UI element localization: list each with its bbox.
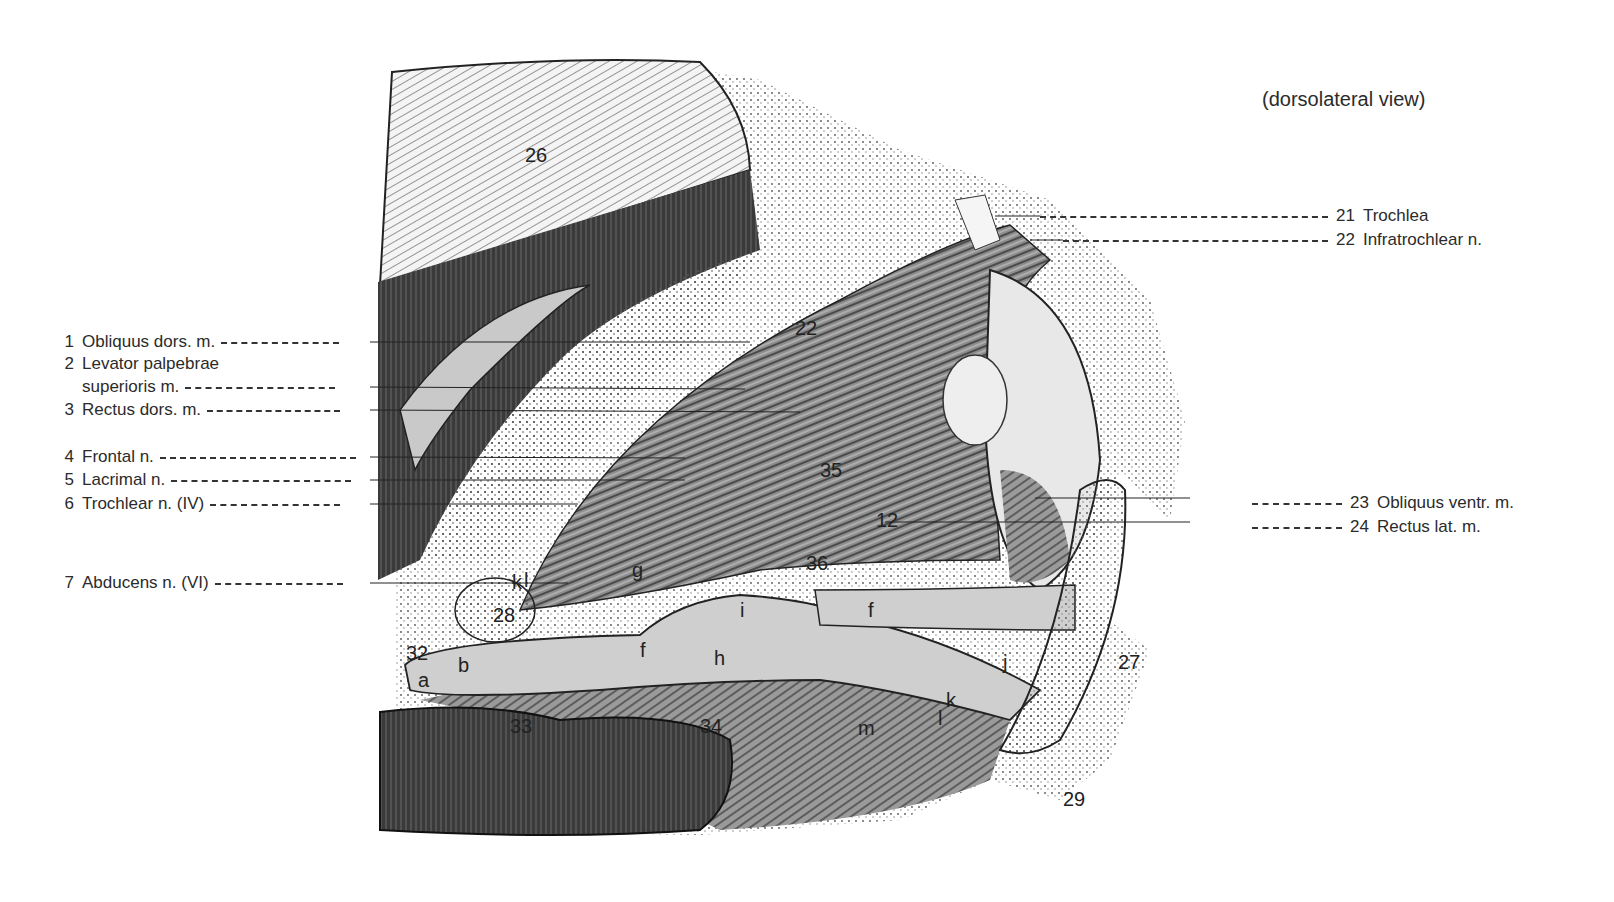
leader-line — [221, 342, 339, 344]
label-number: 21 — [1336, 206, 1355, 226]
figure-marker-m: m — [858, 718, 875, 738]
label-number: 23 — [1350, 493, 1369, 513]
label-right-21: 21Trochlea — [1040, 206, 1428, 226]
label-text: Trochlear n. (IV) — [82, 494, 204, 513]
figure-marker-29: 29 — [1063, 789, 1085, 809]
figure-marker-28: 28 — [493, 605, 515, 625]
label-text: Infratrochlear n. — [1363, 230, 1482, 249]
label-text: Rectus lat. m. — [1377, 517, 1481, 536]
label-number: 6 — [52, 494, 74, 514]
label-number: 4 — [52, 447, 74, 467]
leader-line — [1040, 216, 1328, 218]
figure-marker-j: j — [1003, 652, 1007, 672]
leader-line — [185, 387, 335, 389]
figure-marker-33: 33 — [510, 716, 532, 736]
figure-marker-26: 26 — [525, 145, 547, 165]
figure-marker-l: l — [938, 708, 942, 728]
leader-line — [1252, 527, 1342, 529]
figure-marker-32: 32 — [406, 643, 428, 663]
label-text: Trochlea — [1363, 206, 1429, 225]
figure-marker-22: 22 — [795, 318, 817, 338]
label-text: Abducens n. (VI) — [82, 573, 209, 592]
label-number: 5 — [52, 470, 74, 490]
leader-line — [1252, 503, 1342, 505]
leader-line — [207, 410, 340, 412]
label-left-5: 5Lacrimal n. — [52, 470, 351, 490]
label-number: 1 — [52, 332, 74, 352]
label-left-3: 3Rectus dors. m. — [52, 400, 340, 420]
figure-marker-k: k — [946, 690, 956, 710]
figure-marker-k: k — [512, 572, 522, 592]
figure-marker-34: 34 — [700, 716, 722, 736]
label-right-24: 24Rectus lat. m. — [1252, 517, 1481, 537]
label-left-6: 6Trochlear n. (IV) — [52, 494, 340, 514]
label-text: superioris m. — [82, 377, 179, 396]
figure-marker-a: a — [418, 670, 429, 690]
label-left-1: 1Obliquus dors. m. — [52, 332, 339, 352]
view-caption: (dorsolateral view) — [1262, 88, 1425, 111]
label-number: 3 — [52, 400, 74, 420]
label-right-22: 22Infratrochlear n. — [1063, 230, 1482, 250]
figure-marker-g: g — [632, 560, 643, 580]
label-text: Obliquus ventr. m. — [1377, 493, 1514, 512]
label-left-2: 2Levator palpebrae — [52, 354, 219, 374]
figure-marker-b: b — [458, 655, 469, 675]
label-number: 2 — [52, 354, 74, 374]
figure-marker-36: 36 — [806, 553, 828, 573]
figure-marker-h: h — [714, 648, 725, 668]
figure-marker-12: 12 — [876, 510, 898, 530]
leader-line — [171, 480, 351, 482]
figure-marker-f: f — [640, 640, 646, 660]
label-number: 24 — [1350, 517, 1369, 537]
label-text: Rectus dors. m. — [82, 400, 201, 419]
label-text: Lacrimal n. — [82, 470, 165, 489]
figure-marker-35: 35 — [820, 460, 842, 480]
figure-marker-27: 27 — [1118, 652, 1140, 672]
leader-line — [160, 457, 356, 459]
figure-marker-f: f — [868, 600, 874, 620]
label-left-4: 4Frontal n. — [52, 447, 356, 467]
label-text: Frontal n. — [82, 447, 154, 466]
leader-line — [1063, 240, 1328, 242]
label-right-23: 23Obliquus ventr. m. — [1252, 493, 1514, 513]
leader-line — [215, 583, 343, 585]
label-left-cont: superioris m. — [52, 377, 335, 397]
label-text: Levator palpebrae — [82, 354, 219, 373]
label-number: 7 — [52, 573, 74, 593]
label-number: 22 — [1336, 230, 1355, 250]
figure-marker-i: i — [740, 600, 744, 620]
label-text: Obliquus dors. m. — [82, 332, 215, 351]
leader-line — [210, 504, 340, 506]
figure-marker-l: l — [524, 570, 528, 590]
label-left-7: 7Abducens n. (VI) — [52, 573, 343, 593]
